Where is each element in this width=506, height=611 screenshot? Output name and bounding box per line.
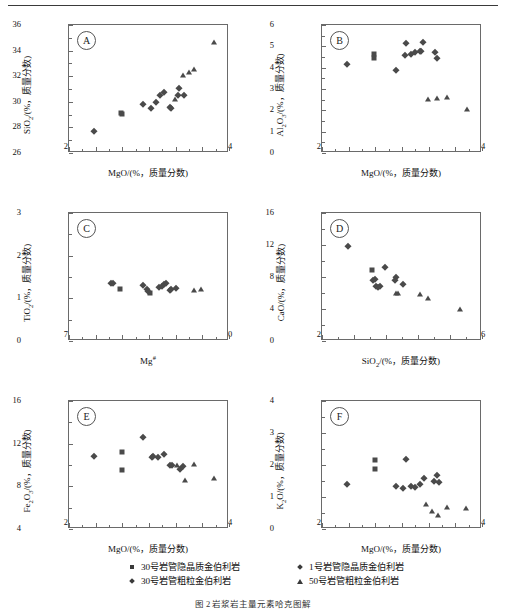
data-point-square [118,286,123,291]
y-tick [322,68,326,69]
data-point-triangle [191,462,197,467]
y-minor-tick [322,229,325,230]
y-minor-tick [322,100,325,101]
data-point-triangle [435,512,441,517]
x-tick [149,335,150,339]
y-tick [322,89,326,90]
y-tick [69,76,73,77]
x-minor-tick [338,337,339,340]
x-minor-tick [82,337,83,340]
data-point-diamond [433,55,439,61]
x-tick [96,523,97,527]
x-tick [482,335,483,339]
data-point-diamond [91,453,97,459]
data-point-diamond [382,263,388,269]
x-axis-title-A: MgO/(%，质量分数) [68,166,228,179]
x-minor-tick [442,525,443,528]
legend-label: 30号岩管隐晶质金伯利岩 [141,560,240,574]
data-point-square [119,468,124,473]
x-tick [202,523,203,527]
data-point-triangle [172,96,178,101]
x-minor-tick [415,525,416,528]
data-point-triangle [464,106,470,111]
x-tick [202,335,203,339]
y-minor-tick [322,481,325,482]
y-minor-tick [69,465,72,466]
panel-label-C: C [77,219,96,238]
data-point-square [372,56,377,61]
y-minor-tick [322,513,325,514]
y-tick [322,245,326,246]
data-point-diamond [401,52,407,58]
x-axis-title-B: MgO/(%，质量分数) [321,166,481,179]
x-minor-tick [362,149,363,152]
y-minor-tick [69,277,72,278]
panel-B: 222426283032340123456BMgO/(%，质量分数)Al2O3/… [253,10,506,196]
panel-label-D: D [330,219,349,238]
panel-label-F: F [330,407,349,426]
data-point-diamond [176,85,182,91]
x-tick [122,335,123,339]
y-minor-tick [322,78,325,79]
y-minor-tick [69,115,72,116]
panel-label-E: E [77,407,96,426]
x-tick [69,147,70,151]
panel-D: 2628303234360481216DSiO2/(%，质量分数)CaO/(%，… [253,198,506,384]
legend-column-left: 30号岩管隐晶质金伯利岩30号岩管粗粒金伯利岩 [128,560,240,588]
x-minor-tick [362,525,363,528]
x-tick [176,147,177,151]
x-tick [322,523,323,527]
x-tick [450,335,451,339]
y-tick [69,341,73,342]
x-minor-tick [109,149,110,152]
x-tick [375,523,376,527]
x-tick [322,147,323,151]
header-rule [8,5,498,6]
x-tick [122,523,123,527]
data-point-triangle [463,506,469,511]
legend-label: 30号岩管粗粒金伯利岩 [141,574,231,588]
x-tick [418,335,419,339]
x-axis-title-C: Mg# [68,354,228,366]
x-tick [402,147,403,151]
y-minor-tick [322,36,325,37]
data-point-square [119,450,124,455]
y-minor-tick [322,293,325,294]
data-point-diamond [148,104,154,110]
data-point-diamond [400,281,406,287]
x-minor-tick [109,525,110,528]
y-minor-tick [322,57,325,58]
x-minor-tick [136,525,137,528]
y-tick [69,401,73,402]
y-minor-tick [322,142,325,143]
y-tick [69,127,73,128]
data-point-square [369,267,374,272]
x-minor-tick [189,337,190,340]
x-tick [122,147,123,151]
y-minor-tick [322,449,325,450]
y-tick [69,486,73,487]
data-point-diamond [421,475,427,481]
x-minor-tick [82,525,83,528]
y-minor-tick [69,38,72,39]
x-tick [386,335,387,339]
y-tick [322,110,326,111]
y-axis-title-C: TiO2/(%，质量分数) [20,208,34,358]
y-tick [322,213,326,214]
x-tick [202,147,203,151]
panel-label-A: A [77,31,96,50]
y-minor-tick [69,422,72,423]
x-tick [455,147,456,151]
plot-area-B: B [321,24,481,152]
x-minor-tick [162,525,163,528]
data-point-diamond [418,48,424,54]
x-tick [429,147,430,151]
data-point-diamond [168,105,174,111]
x-tick [429,523,430,527]
x-minor-tick [442,149,443,152]
panel-C: 788082848688900123CMg#TiO2/(%，质量分数) [0,198,253,384]
y-tick [322,529,326,530]
data-point-diamond [140,434,146,440]
x-tick [149,523,150,527]
data-point-triangle [444,95,450,100]
